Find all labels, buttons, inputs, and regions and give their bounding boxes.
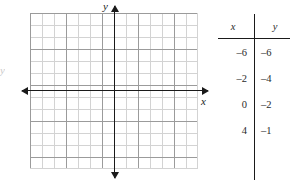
coordinate-plane: y y x xyxy=(0,0,212,192)
table-of-values: x y –6 –6 –2 –4 0 –2 4 – xyxy=(212,0,294,192)
y-axis-up-arrow-icon xyxy=(111,5,119,12)
table-header-row: x y xyxy=(218,16,290,39)
x-axis xyxy=(22,90,208,91)
cell-y: –4 xyxy=(254,65,290,91)
table-body: –6 –6 –2 –4 0 –2 4 –1 xyxy=(218,39,290,144)
table-row: 0 –2 xyxy=(218,91,290,117)
table-row: –2 –4 xyxy=(218,65,290,91)
x-axis-right-arrow-icon xyxy=(202,87,209,95)
table-row: –6 –6 xyxy=(218,39,290,66)
table-head: x y xyxy=(218,16,290,39)
table-row: 4 –1 xyxy=(218,117,290,143)
y-axis-label: y xyxy=(103,1,108,12)
y-axis xyxy=(114,6,115,178)
cell-x: 4 xyxy=(218,117,254,143)
cell-y: –6 xyxy=(254,39,290,66)
cell-x: –2 xyxy=(218,65,254,91)
column-header-x: x xyxy=(218,16,254,39)
y-axis-down-arrow-icon xyxy=(111,172,119,179)
cell-y: –2 xyxy=(254,91,290,117)
values-table: x y –6 –6 –2 –4 0 –2 4 – xyxy=(218,16,290,143)
cell-y: –1 xyxy=(254,117,290,143)
cell-x: 0 xyxy=(218,91,254,117)
cropped-edge-artifact: y xyxy=(0,64,7,77)
figure-root: y y x x y –6 –6 xyxy=(0,0,294,192)
x-axis-label: x xyxy=(201,96,206,107)
x-axis-left-arrow-icon xyxy=(21,87,28,95)
column-header-y: y xyxy=(254,16,290,39)
cell-x: –6 xyxy=(218,39,254,66)
